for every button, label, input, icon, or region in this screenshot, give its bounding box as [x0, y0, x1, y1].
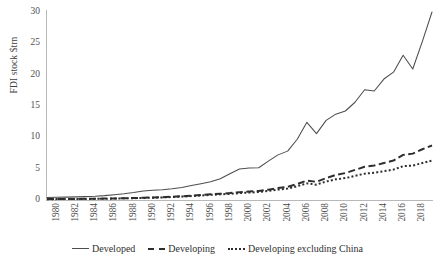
x-tick-label: 2014: [379, 203, 388, 222]
x-tick-label: 1980: [52, 203, 61, 222]
x-tick-label: 2006: [302, 203, 311, 222]
x-tick-label: 2016: [398, 203, 407, 222]
fdi-stock-line-chart: FDI stock $trn 051015202530 198019821984…: [0, 0, 435, 263]
x-tick-label: 2008: [321, 203, 330, 222]
legend-item[interactable]: Developed: [72, 243, 135, 254]
legend-label: Developing excluding China: [248, 243, 363, 254]
x-tick-label: 1988: [129, 203, 138, 222]
series-line-developed: [47, 12, 432, 197]
x-tick-label: 2004: [283, 203, 292, 222]
x-axis-tick-labels: 1980198219841986198819901992199419961998…: [47, 203, 432, 243]
plot-area: [47, 12, 432, 200]
legend-label: Developing: [168, 243, 215, 254]
legend-swatch-dotted-line-icon: [228, 248, 245, 250]
y-tick-label: 25: [14, 39, 40, 49]
legend-swatch-dashed-line-icon: [148, 248, 165, 250]
x-tick-label: 2010: [340, 203, 349, 222]
x-axis-line: [46, 200, 433, 201]
legend-label: Developed: [92, 243, 135, 254]
x-tick-label: 1982: [71, 203, 80, 222]
x-tick-label: 1996: [206, 203, 215, 222]
y-tick-label: 10: [14, 133, 40, 143]
legend-item[interactable]: Developing excluding China: [228, 243, 363, 254]
y-tick-label: 20: [14, 70, 40, 80]
x-tick-label: 1994: [186, 203, 195, 222]
x-tick-label: 2000: [244, 203, 253, 222]
x-tick-label: 1992: [167, 203, 176, 222]
y-tick-label: 0: [14, 195, 40, 205]
y-axis-tick-labels: 051015202530: [14, 0, 40, 263]
x-tick-label: 1986: [109, 203, 118, 222]
x-tick-label: 1998: [225, 203, 234, 222]
y-tick-label: 5: [14, 164, 40, 174]
y-tick-label: 30: [14, 7, 40, 17]
x-tick-label: 2018: [417, 203, 426, 222]
series-line-developing: [47, 145, 432, 199]
x-tick-label: 2012: [360, 203, 369, 222]
legend-item[interactable]: Developing: [148, 243, 215, 254]
x-tick-label: 1984: [90, 203, 99, 222]
y-tick-label: 15: [14, 101, 40, 111]
x-tick-label: 1990: [148, 203, 157, 222]
legend-swatch-solid-line-icon: [72, 248, 89, 249]
chart-legend: DevelopedDevelopingDeveloping excluding …: [0, 243, 435, 254]
x-tick-label: 2002: [263, 203, 272, 222]
series-canvas: [47, 12, 432, 200]
